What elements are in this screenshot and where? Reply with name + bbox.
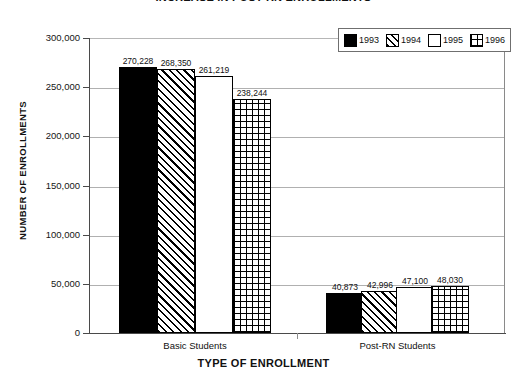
legend-swatch-1994: [386, 34, 399, 47]
y-axis-tick: [83, 235, 89, 236]
legend-swatch-1996: [470, 34, 483, 47]
y-axis-tick-label: 200,000: [18, 130, 80, 141]
legend-item-1994: 1994: [386, 34, 421, 47]
y-axis-tick-label: 150,000: [18, 180, 80, 191]
y-axis-tick: [83, 87, 89, 88]
bar-1996-basic: [233, 99, 271, 333]
y-axis-tick-labels: 050,000100,000150,000200,000250,000300,0…: [14, 0, 80, 386]
bar-value-label: 48,030: [425, 275, 475, 285]
y-axis-tick-label: 300,000: [18, 32, 80, 43]
y-axis-line: [89, 38, 90, 334]
chart-legend: 1993199419951996: [338, 28, 511, 52]
bar-1996-postrn: [431, 286, 469, 333]
legend-label: 1993: [359, 35, 379, 45]
y-axis-tick: [83, 38, 89, 39]
legend-label: 1996: [485, 35, 505, 45]
bar-1995-basic: [195, 76, 233, 333]
bar-1995-postrn: [396, 287, 434, 333]
category-tick: [297, 333, 298, 339]
y-axis-tick-label: 250,000: [18, 81, 80, 92]
y-axis-tick: [83, 333, 89, 334]
bar-value-label: 238,244: [227, 88, 277, 98]
y-axis-tick-label: 0: [18, 327, 80, 338]
legend-item-1995: 1995: [428, 34, 463, 47]
bar-value-label: 261,219: [189, 65, 239, 75]
y-axis-tick: [83, 186, 89, 187]
x-axis-title: TYPE OF ENROLLMENT: [0, 357, 527, 369]
y-axis-tick-label: 50,000: [18, 278, 80, 289]
bar-1994-postrn: [361, 291, 399, 333]
legend-label: 1994: [401, 35, 421, 45]
bar-1994-basic: [157, 69, 195, 333]
bar-chart: INCREASE IN POST-RN ENROLLMENTS NUMBER O…: [0, 0, 527, 386]
bar-1993-basic: [119, 67, 157, 333]
bar-1993-postrn: [326, 293, 364, 333]
legend-item-1993: 1993: [344, 34, 379, 47]
legend-swatch-1995: [428, 34, 441, 47]
y-axis-tick-label: 100,000: [18, 229, 80, 240]
y-axis-tick: [83, 136, 89, 137]
legend-swatch-1993: [344, 34, 357, 47]
category-label: Basic Students: [163, 340, 226, 351]
legend-label: 1995: [443, 35, 463, 45]
category-label: Post-RN Students: [359, 340, 435, 351]
y-axis-tick: [83, 284, 89, 285]
legend-item-1996: 1996: [470, 34, 505, 47]
